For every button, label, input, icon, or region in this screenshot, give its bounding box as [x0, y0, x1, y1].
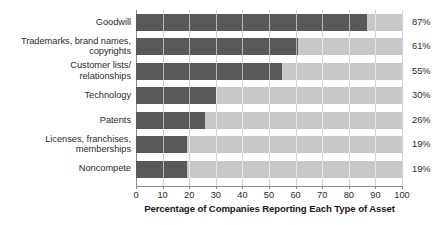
bar-gridline [216, 136, 217, 153]
bar-gridline [269, 63, 270, 80]
bar-gridline [269, 87, 270, 104]
bar-gridline [216, 38, 217, 55]
x-axis-title: Percentage of Companies Reporting Each T… [136, 203, 403, 214]
bar-gridline [163, 14, 164, 31]
bar-gridline [189, 161, 190, 178]
bar-row[interactable] [136, 63, 402, 80]
bar-gridline [349, 63, 350, 80]
bars-layer [136, 14, 402, 185]
bar-gridline [375, 63, 376, 80]
bar-row[interactable] [136, 38, 402, 55]
category-label-line: relationships [0, 71, 131, 82]
category-label-line: Customer lists/ [0, 60, 131, 71]
bar-gridline [242, 136, 243, 153]
bar-gridline [216, 87, 217, 104]
bar-gridline [216, 161, 217, 178]
bar-gridline [163, 87, 164, 104]
bar-gridline [296, 38, 297, 55]
category-label-line: Trademarks, brand names, [0, 36, 131, 47]
bar-row[interactable] [136, 136, 402, 153]
bar-gridline [296, 14, 297, 31]
bar-gridline [296, 63, 297, 80]
category-label-line: memberships [0, 144, 131, 155]
bar-fill [136, 14, 367, 31]
bar-gridline [375, 38, 376, 55]
bar-gridline [163, 136, 164, 153]
bar-gridline [322, 14, 323, 31]
bar-gridline [189, 38, 190, 55]
bar-gridline [189, 87, 190, 104]
value-label: 87% [412, 17, 442, 28]
bar-gridline [242, 14, 243, 31]
bar-gridline [242, 38, 243, 55]
bar-fill [136, 63, 282, 80]
category-label-line: Noncompete [0, 163, 131, 174]
bar-row[interactable] [136, 14, 402, 31]
bar-gridline [296, 136, 297, 153]
bar-row[interactable] [136, 112, 402, 129]
bar-gridline [216, 112, 217, 129]
bar-gridline [296, 87, 297, 104]
category-label-line: Patents [0, 115, 131, 126]
bar-gridline [349, 161, 350, 178]
bar-fill [136, 38, 298, 55]
bar-gridline [349, 136, 350, 153]
bar-gridline [349, 14, 350, 31]
bar-fill [136, 112, 205, 129]
bar-gridline [269, 38, 270, 55]
value-label: 61% [412, 41, 442, 52]
category-label: Licenses, franchises,memberships [0, 134, 131, 155]
bar-gridline [322, 63, 323, 80]
value-label: 30% [412, 90, 442, 101]
bar-gridline [322, 112, 323, 129]
bar-gridline [163, 63, 164, 80]
bar-row[interactable] [136, 87, 402, 104]
bar-fill [136, 87, 216, 104]
bar-gridline [296, 161, 297, 178]
bar-gridline [375, 161, 376, 178]
bar-gridline [216, 14, 217, 31]
bar-gridline [189, 112, 190, 129]
bar-gridline [269, 14, 270, 31]
bar-chart: GoodwillTrademarks, brand names,copyrigh… [0, 0, 442, 225]
bar-gridline [163, 161, 164, 178]
bar-gridline [349, 38, 350, 55]
bar-gridline [375, 136, 376, 153]
bar-gridline [189, 14, 190, 31]
bar-gridline [242, 112, 243, 129]
bar-gridline [242, 161, 243, 178]
bar-gridline [296, 112, 297, 129]
bar-gridline [322, 87, 323, 104]
bar-gridline [242, 63, 243, 80]
bar-gridline [375, 87, 376, 104]
category-label: Goodwill [0, 17, 131, 28]
bar-gridline [189, 63, 190, 80]
bar-gridline [269, 112, 270, 129]
bar-fill [136, 161, 187, 178]
value-label: 55% [412, 66, 442, 77]
bar-gridline [349, 112, 350, 129]
bar-gridline [242, 87, 243, 104]
category-label: Technology [0, 90, 131, 101]
bar-gridline [375, 14, 376, 31]
value-label: 19% [412, 164, 442, 175]
bar-gridline [322, 161, 323, 178]
category-label-line: Licenses, franchises, [0, 134, 131, 145]
category-label-line: Goodwill [0, 17, 131, 28]
bar-gridline [269, 136, 270, 153]
bar-row[interactable] [136, 161, 402, 178]
category-label: Noncompete [0, 163, 131, 174]
category-label: Trademarks, brand names,copyrights [0, 36, 131, 57]
value-label-column: 87%61%55%30%26%19%19% [412, 14, 442, 185]
category-label-line: copyrights [0, 46, 131, 57]
x-tick-label: 100 [382, 189, 422, 201]
bar-gridline [216, 63, 217, 80]
bar-fill [136, 136, 187, 153]
bar-gridline [163, 112, 164, 129]
bar-gridline [163, 38, 164, 55]
value-label: 26% [412, 115, 442, 126]
bar-gridline [269, 161, 270, 178]
bar-gridline [322, 136, 323, 153]
category-label-line: Technology [0, 90, 131, 101]
category-label-column: GoodwillTrademarks, brand names,copyrigh… [0, 14, 131, 185]
